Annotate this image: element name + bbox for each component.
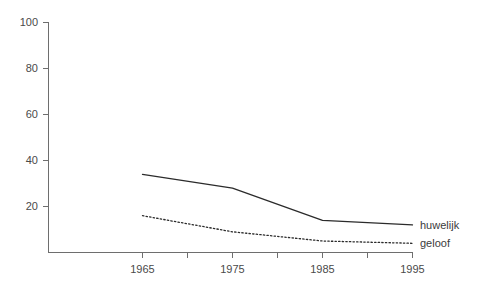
y-tick-label-80: 80 <box>26 62 38 74</box>
x-tick-label-1985: 1985 <box>310 263 334 275</box>
line-chart: 100 80 60 40 20 1965 1975 1985 1995 huwe <box>0 0 482 295</box>
chart-background <box>0 0 482 295</box>
series-label-geloof: geloof <box>420 237 451 249</box>
y-tick-label-60: 60 <box>26 108 38 120</box>
x-tick-label-1965: 1965 <box>130 263 154 275</box>
y-tick-label-100: 100 <box>20 16 38 28</box>
y-tick-label-40: 40 <box>26 154 38 166</box>
chart-canvas: 100 80 60 40 20 1965 1975 1985 1995 huwe <box>0 0 482 295</box>
x-tick-label-1995: 1995 <box>400 263 424 275</box>
y-tick-label-20: 20 <box>26 200 38 212</box>
x-tick-label-1975: 1975 <box>220 263 244 275</box>
series-label-huwelijk: huwelijk <box>420 219 460 231</box>
